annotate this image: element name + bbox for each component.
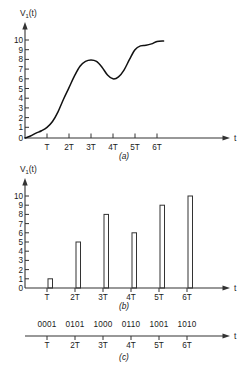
panel-a-ytick-3: 3 [18,104,23,113]
panel-a-ytick-7: 7 [18,65,23,74]
panel-a-x-axis-arrow-icon [223,135,231,140]
panel-a-yaxis-title: V1(t) [20,8,37,19]
panel-c: t T 0001 2T 0101 3T 1000 4T 0110 5T 1001… [25,320,237,362]
panel-b-bar-group [48,196,193,288]
panel-a-xtick-4T: 4T [108,143,118,152]
panel-c-xtick-2T: 2T [70,341,80,350]
panel-b-bar-4T [132,233,137,288]
panel-b-xtick-6T: 6T [182,293,192,302]
panel-b-ytick-10: 10 [14,192,24,201]
panel-b-ytick-0: 0 [18,284,23,293]
panel-b-yaxis-title: V1(t) [20,164,37,175]
panel-c-xtick-6T: 6T [182,341,192,350]
panel-a-ytick-2: 2 [18,114,23,123]
panel-b-xtick-T: T [44,293,49,302]
panel-b-ytick-3: 3 [18,256,23,265]
panel-c-x-ticks: T 0001 2T 0101 3T 1000 4T 0110 5T 1001 6… [37,320,196,350]
panel-c-code-6T: 1010 [177,320,196,329]
panel-b-ytick-2: 2 [18,266,23,275]
panel-b-bar-T [48,279,53,288]
panel-b-xtick-3T: 3T [98,293,108,302]
panel-b-xtick-5T: 5T [154,293,164,302]
panel-a-xaxis-title: t [234,133,237,143]
panel-c-xtick-T: T [44,341,49,350]
panel-b-xaxis-title: t [234,283,237,293]
panel-b: V1(t) t 10 9 8 7 6 5 4 [14,164,237,311]
panel-b-ytick-5: 5 [18,238,23,247]
panel-a-xtick-6T: 6T [152,143,162,152]
panel-c-code-4T: 0110 [122,320,141,329]
panel-a-ytick-8: 8 [18,55,23,64]
panel-b-y-axis-arrow-icon [22,178,27,186]
panel-b-ytick-8: 8 [18,210,23,219]
figure-container: V1(t) t 10 9 8 7 6 5 [0,0,252,369]
panel-a-waveform-curve [25,41,164,138]
panel-c-code-5T: 1001 [149,320,168,329]
panel-b-xtick-2T: 2T [70,293,80,302]
panel-c-xaxis-title: t [234,331,237,341]
panel-b-bar-5T [160,205,165,288]
panel-b-label: (b) [119,301,129,311]
panel-b-ytick-1: 1 [18,275,23,284]
panel-c-xtick-3T: 3T [98,341,108,350]
panel-a-ytick-5: 5 [18,85,23,94]
panel-b-ytick-7: 7 [18,220,23,229]
panel-b-bar-2T [76,242,81,288]
panel-a-xtick-T: T [44,143,49,152]
panel-b-y-ticks: 10 9 8 7 6 5 4 3 2 1 0 [14,192,29,293]
panel-b-x-ticks: T 2T 3T 4T 5T 6T [44,288,191,302]
panel-a-x-ticks: T 2T 3T 4T 5T 6T [44,134,161,153]
panel-a-ytick-1: 1 [18,123,23,132]
panel-c-code-T: 0001 [37,320,56,329]
panel-c-x-axis-arrow-icon [223,333,231,338]
figure-svg: V1(t) t 10 9 8 7 6 5 [0,0,252,369]
panel-a-ytick-6: 6 [18,75,23,84]
panel-b-x-axis-arrow-icon [223,285,231,290]
panel-a: V1(t) t 10 9 8 7 6 5 [14,8,237,161]
panel-a-ytick-4: 4 [18,94,23,103]
panel-a-ytick-9: 9 [18,46,23,55]
panel-c-xtick-5T: 5T [154,341,164,350]
panel-a-xtick-3T: 3T [86,143,96,152]
panel-a-xtick-2T: 2T [64,143,74,152]
panel-c-code-3T: 1000 [93,320,112,329]
panel-c-code-2T: 0101 [65,320,84,329]
panel-b-bar-6T [188,196,193,288]
panel-a-ytick-0: 0 [18,134,23,143]
panel-a-xtick-5T: 5T [130,143,140,152]
panel-c-label: (c) [119,352,129,362]
panel-a-y-axis-arrow-icon [22,22,27,30]
panel-a-label: (a) [119,151,129,161]
panel-b-ytick-6: 6 [18,229,23,238]
panel-b-ytick-4: 4 [18,247,23,256]
panel-b-ytick-9: 9 [18,201,23,210]
panel-b-bar-3T [104,214,109,288]
panel-a-y-ticks: 10 9 8 7 6 5 4 3 2 1 0 [14,36,29,143]
panel-a-ytick-10: 10 [14,36,24,45]
panel-c-xtick-4T: 4T [126,341,136,350]
